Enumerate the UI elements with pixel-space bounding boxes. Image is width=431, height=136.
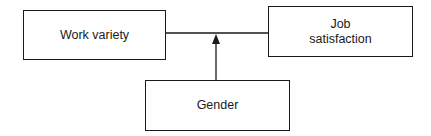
node-label: Work variety <box>60 28 129 43</box>
arrowhead-icon <box>212 34 220 44</box>
node-label: Gender <box>197 98 239 113</box>
node-label-line-1: Job <box>330 17 350 32</box>
node-label-line-2: satisfaction <box>309 32 372 47</box>
node-work-variety: Work variety <box>23 10 166 60</box>
node-job-satisfaction: Job satisfaction <box>268 6 413 57</box>
node-gender: Gender <box>145 80 290 131</box>
